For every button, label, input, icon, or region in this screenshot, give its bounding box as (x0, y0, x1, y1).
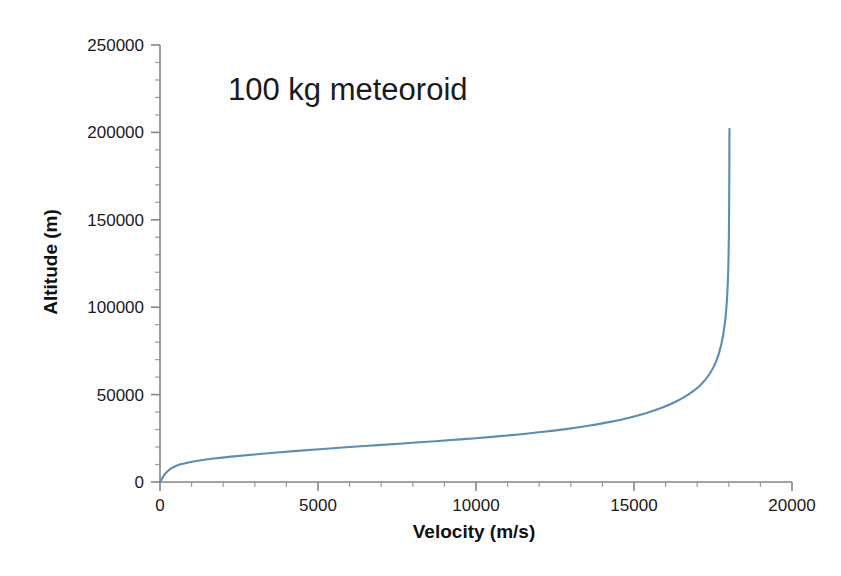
y-tick-label: 50000 (97, 386, 144, 405)
y-tick-label: 150000 (87, 211, 144, 230)
x-tick-label: 0 (155, 496, 164, 515)
plot-annotation-label: 100 kg meteoroid (228, 72, 468, 107)
x-tick-label: 5000 (299, 496, 337, 515)
y-axis-title: Altitude (m) (40, 209, 61, 315)
velocity-altitude-line-chart: 050000100000150000200000250000 050001000… (0, 0, 841, 576)
x-axis-title: Velocity (m/s) (413, 521, 536, 542)
chart-figure: 050000100000150000200000250000 050001000… (0, 0, 841, 576)
y-tick-label: 0 (135, 473, 144, 492)
x-tick-label: 15000 (610, 496, 657, 515)
x-tick-label: 10000 (452, 496, 499, 515)
y-tick-label: 200000 (87, 123, 144, 142)
x-tick-label: 20000 (768, 496, 815, 515)
y-tick-label: 100000 (87, 298, 144, 317)
y-tick-label: 250000 (87, 36, 144, 55)
